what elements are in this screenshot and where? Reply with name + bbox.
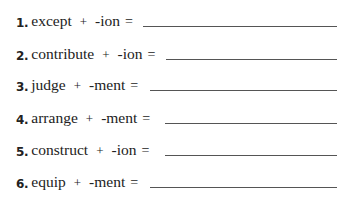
suffix: -ment bbox=[89, 173, 125, 191]
plus-operator: + bbox=[86, 111, 93, 127]
base-word: except bbox=[31, 12, 71, 30]
answer-blank-1[interactable] bbox=[143, 26, 337, 27]
suffix: -ion bbox=[95, 12, 120, 30]
base-word: judge bbox=[31, 76, 65, 94]
base-word: equip bbox=[31, 173, 65, 191]
plus-operator: + bbox=[74, 175, 81, 191]
equals-sign: = bbox=[147, 47, 155, 63]
item-number: 3. bbox=[16, 80, 28, 94]
item-number: 5. bbox=[16, 145, 28, 159]
base-word: construct bbox=[31, 141, 88, 159]
suffix: -ion bbox=[111, 141, 136, 159]
equals-sign: = bbox=[142, 111, 150, 127]
suffix: -ment bbox=[89, 76, 125, 94]
answer-blank-4[interactable] bbox=[165, 123, 337, 124]
item-number: 6. bbox=[16, 177, 28, 191]
exercise-item-6: 6. equip + -ment = bbox=[16, 169, 138, 191]
plus-operator: + bbox=[102, 47, 109, 63]
item-number: 2. bbox=[16, 49, 28, 63]
exercise-item-1: 1. except + -ion = bbox=[16, 8, 133, 30]
equals-sign: = bbox=[141, 143, 149, 159]
equals-sign: = bbox=[130, 78, 138, 94]
plus-operator: + bbox=[74, 78, 81, 94]
item-number: 4. bbox=[16, 113, 28, 127]
item-number: 1. bbox=[16, 16, 28, 30]
suffix: -ion bbox=[118, 45, 143, 63]
exercise-item-3: 3. judge + -ment = bbox=[16, 72, 138, 94]
answer-blank-3[interactable] bbox=[150, 90, 337, 91]
plus-operator: + bbox=[96, 143, 103, 159]
exercise-item-2: 2. contribute + -ion = bbox=[16, 41, 155, 63]
plus-operator: + bbox=[80, 14, 87, 30]
exercise-item-5: 5. construct + -ion = bbox=[16, 137, 149, 159]
base-word: contribute bbox=[31, 45, 94, 63]
suffix: -ment bbox=[101, 109, 137, 127]
equals-sign: = bbox=[130, 175, 138, 191]
answer-blank-2[interactable] bbox=[166, 59, 337, 60]
equals-sign: = bbox=[125, 14, 133, 30]
answer-blank-6[interactable] bbox=[150, 187, 337, 188]
exercise-item-4: 4. arrange + -ment = bbox=[16, 105, 150, 127]
base-word: arrange bbox=[31, 109, 77, 127]
answer-blank-5[interactable] bbox=[165, 155, 337, 156]
